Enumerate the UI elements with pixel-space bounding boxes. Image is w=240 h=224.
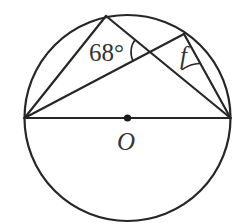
geometry-diagram: 68° f O [0, 0, 240, 224]
center-label-o: O [117, 128, 135, 155]
center-point [124, 114, 131, 121]
angle-arc-68 [131, 39, 136, 61]
angle-label-68: 68° [89, 39, 124, 66]
chord-d-b [184, 34, 231, 118]
chord-a-c [25, 16, 107, 118]
angle-label-f: f [180, 42, 190, 69]
chord-c-b [106, 16, 231, 118]
